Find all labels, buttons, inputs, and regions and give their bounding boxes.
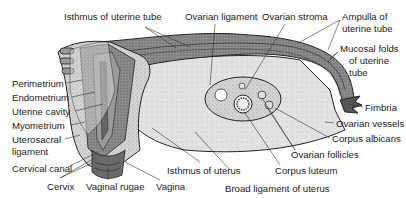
label-uterosacral-line1: Uterosacral [12, 135, 61, 145]
label-ampulla-line2: uterine tube [342, 24, 393, 34]
label-isthmus-uterine-tube: Isthmus of uterine tube [64, 12, 162, 22]
label-cervical-canal: Cervical canal [12, 164, 72, 174]
label-ovarian-stroma: Ovarian stroma [262, 12, 328, 22]
label-ampulla-line1: Ampulla of [342, 12, 387, 22]
label-fimbria: Fimbria [365, 103, 397, 113]
label-isthmus-uterus: Isthmus of uterus [167, 166, 241, 176]
label-broad-ligament: Broad ligament of uterus [225, 184, 330, 194]
anatomy-diagram: Isthmus of uterine tube Ovarian ligament… [0, 0, 406, 198]
label-myometrium: Myometrium [12, 121, 65, 131]
label-corpus-albicans: Corpus albicans [332, 134, 401, 144]
label-uterosacral-line2: ligament [12, 147, 48, 157]
label-mucosal-line2: of uterine [349, 56, 389, 66]
label-corpus-luteum: Corpus luteum [275, 166, 337, 176]
follicle [239, 83, 245, 89]
label-ovarian-vessels: Ovarian vessels [336, 119, 404, 129]
label-uterine-cavity: Uterine cavity [12, 107, 70, 117]
label-vaginal-rugae: Vaginal rugae [86, 182, 145, 192]
label-endometrium: Endometrium [12, 93, 69, 103]
label-cervix: Cervix [47, 182, 74, 192]
follicle [258, 91, 266, 99]
label-mucosal-line3: tube [349, 68, 368, 78]
follicle [215, 89, 227, 101]
label-ovarian-follicles: Ovarian follicles [291, 150, 359, 160]
label-ovarian-ligament: Ovarian ligament [185, 12, 258, 22]
label-mucosal-line1: Mucosal folds [340, 44, 399, 54]
label-perimetrium: Perimetrium [12, 79, 64, 89]
label-vagina: Vagina [156, 182, 185, 192]
